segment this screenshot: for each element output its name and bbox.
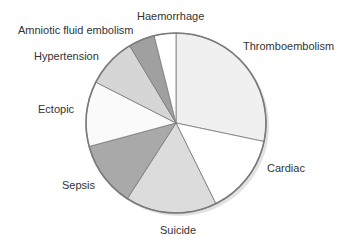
label-sepsis: Sepsis — [62, 179, 95, 191]
pie-slices — [86, 33, 266, 213]
label-cardiac: Cardiac — [267, 162, 305, 174]
label-suicide: Suicide — [160, 224, 196, 236]
label-amniotic-fluid-embolism: Amniotic fluid embolism — [18, 24, 134, 36]
label-thromboembolism: Thromboembolism — [243, 40, 334, 52]
label-hypertension: Hypertension — [34, 50, 99, 62]
label-ectopic: Ectopic — [38, 103, 74, 115]
pie-chart — [0, 0, 361, 244]
label-haemorrhage: Haemorrhage — [137, 10, 204, 22]
